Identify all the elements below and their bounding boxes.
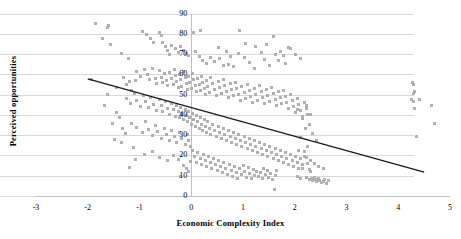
- x-axis-line: [36, 196, 450, 197]
- data-point: [282, 54, 285, 57]
- data-point: [158, 156, 161, 159]
- data-point: [208, 127, 211, 130]
- scatter-chart-figure: 0102030405060708090 -3-2-1012345 Economi…: [0, 0, 461, 239]
- data-point: [200, 75, 203, 78]
- y-tick-label: 20: [167, 151, 187, 159]
- data-point: [199, 89, 202, 92]
- data-point: [135, 99, 138, 102]
- data-point: [297, 103, 300, 106]
- data-point: [258, 84, 261, 87]
- data-point: [315, 139, 318, 142]
- data-point: [145, 33, 148, 36]
- data-point: [306, 145, 309, 148]
- data-point: [308, 123, 311, 126]
- data-point: [275, 104, 278, 107]
- data-point: [284, 62, 287, 65]
- data-point: [125, 83, 128, 86]
- data-point: [242, 164, 245, 167]
- y-tick-label: 90: [167, 10, 187, 18]
- data-point: [166, 84, 169, 87]
- data-point: [243, 170, 246, 173]
- data-point: [231, 175, 234, 178]
- data-point: [228, 163, 231, 166]
- data-point: [180, 85, 183, 88]
- data-point: [215, 94, 218, 97]
- data-point: [192, 118, 195, 121]
- data-point: [179, 78, 182, 81]
- data-point: [235, 143, 238, 146]
- data-point: [158, 69, 161, 72]
- data-point: [205, 62, 208, 65]
- data-point: [267, 176, 270, 179]
- x-tick-label: 2: [285, 204, 305, 212]
- x-tick-label: 0: [181, 204, 201, 212]
- data-point: [291, 159, 294, 162]
- data-point: [175, 141, 178, 144]
- data-point: [296, 97, 299, 100]
- data-point: [226, 173, 229, 176]
- data-point: [237, 52, 240, 55]
- data-point: [128, 80, 131, 83]
- data-point: [213, 129, 216, 132]
- data-point: [275, 169, 278, 172]
- data-point: [259, 171, 262, 174]
- data-point: [113, 138, 116, 141]
- data-point: [280, 102, 283, 105]
- data-point: [279, 96, 282, 99]
- data-point: [246, 83, 249, 86]
- data-point: [284, 95, 287, 98]
- data-point: [195, 114, 198, 117]
- data-point: [268, 64, 271, 67]
- data-point: [204, 159, 207, 162]
- data-point: [130, 89, 133, 92]
- x-tick-label: -2: [78, 204, 98, 212]
- data-point: [285, 101, 288, 104]
- x-axis-title: Economic Complexity Index: [0, 218, 461, 228]
- data-point: [248, 172, 251, 175]
- data-point: [163, 72, 166, 75]
- data-point: [292, 105, 295, 108]
- x-tick-label: 5: [440, 204, 460, 212]
- data-point: [245, 176, 248, 179]
- data-point: [230, 141, 233, 144]
- data-point: [274, 147, 277, 150]
- data-point: [215, 135, 218, 138]
- data-point: [247, 166, 250, 169]
- data-point: [299, 109, 302, 112]
- data-point: [301, 163, 304, 166]
- data-point: [148, 78, 151, 81]
- data-point: [238, 29, 241, 32]
- data-point: [211, 82, 214, 85]
- data-point: [282, 161, 285, 164]
- data-point: [161, 110, 164, 113]
- data-point: [212, 157, 215, 160]
- data-point: [277, 159, 280, 162]
- data-point: [217, 159, 220, 162]
- data-point: [154, 77, 157, 80]
- data-point: [225, 139, 228, 142]
- data-point: [213, 60, 216, 63]
- data-point: [238, 167, 241, 170]
- data-point: [253, 139, 256, 142]
- y-tick-label: 50: [167, 91, 187, 99]
- data-point: [261, 177, 264, 180]
- data-point: [144, 100, 147, 103]
- x-tick-label: -3: [26, 204, 46, 212]
- data-point: [129, 102, 132, 105]
- data-point: [236, 177, 239, 180]
- data-point: [254, 145, 257, 148]
- data-point: [260, 90, 263, 93]
- data-point: [274, 98, 277, 101]
- data-point: [206, 85, 209, 88]
- data-point: [309, 159, 312, 162]
- data-point: [216, 169, 219, 172]
- data-point: [301, 117, 304, 120]
- data-point: [237, 93, 240, 96]
- data-point: [182, 118, 185, 121]
- data-point: [205, 131, 208, 134]
- data-point: [143, 153, 146, 156]
- data-point: [248, 61, 251, 64]
- data-point: [229, 55, 232, 58]
- data-point: [430, 104, 433, 107]
- data-point: [201, 81, 204, 84]
